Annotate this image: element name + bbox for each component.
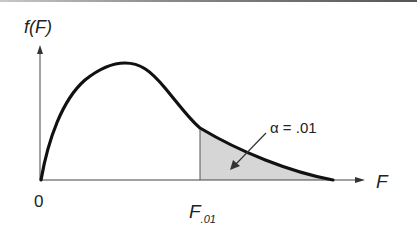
f-distribution-diagram xyxy=(0,0,417,234)
y-axis-label-text: f(F) xyxy=(24,17,52,37)
critical-value-subscript: .01 xyxy=(201,213,216,225)
y-axis-arrow-icon xyxy=(37,45,43,54)
critical-value-label: F.01 xyxy=(189,202,216,221)
x-axis-label: F xyxy=(376,172,388,191)
x-axis-arrow-icon xyxy=(355,177,365,183)
y-axis-label: f(F) xyxy=(24,18,52,36)
alpha-annotation: α = .01 xyxy=(270,120,317,135)
critical-value-symbol: F xyxy=(189,201,201,222)
origin-label: 0 xyxy=(34,193,43,210)
